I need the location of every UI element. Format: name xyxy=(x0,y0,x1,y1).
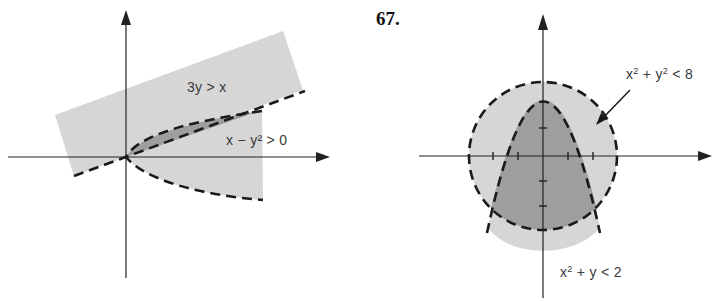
label-3y-gt-x: 3y > x xyxy=(187,79,227,95)
x-axis-arrow-icon xyxy=(698,151,712,161)
label-x2-plus-y-lt-2: x2 + y < 2 xyxy=(560,264,622,280)
label-part: + y < 2 xyxy=(573,264,622,280)
x-axis-arrow-icon xyxy=(316,152,330,162)
label-text: x − y² > 0 xyxy=(226,132,287,148)
label-text: 3y > x xyxy=(187,79,227,95)
y-axis-arrow-icon xyxy=(121,10,131,25)
pointer-line xyxy=(600,90,630,121)
label-part: + y xyxy=(639,66,663,82)
label-x2-plus-y2-lt-8: x2 + y2 < 8 xyxy=(626,66,693,82)
label-x-minus-y2-gt-0: x − y² > 0 xyxy=(226,132,287,148)
graph-left-canvas xyxy=(0,0,360,301)
graph-right-problem-67: 67. x2 + y2 < 8 xyxy=(360,0,719,301)
problem-number: 67. xyxy=(376,8,400,30)
graph-left-inequalities: 3y > x x − y² > 0 xyxy=(0,0,360,301)
label-part: < 8 xyxy=(668,66,693,82)
graph-right-canvas xyxy=(360,0,719,301)
y-axis-arrow-icon xyxy=(538,14,548,30)
